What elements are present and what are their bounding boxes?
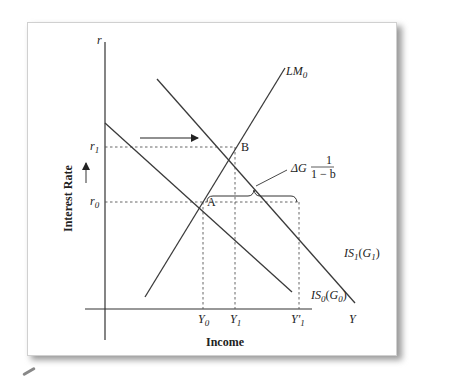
point-a-label: A	[207, 195, 216, 209]
multiplier-prefix: ΔG	[290, 161, 307, 175]
annotation-leader	[256, 170, 287, 186]
tick-r0: r0	[90, 194, 100, 210]
y-axis-title: Interest Rate	[61, 165, 75, 232]
lm0-curve	[145, 68, 285, 297]
is0-label: IS0(G0)	[310, 288, 347, 304]
x-axis-title: Income	[206, 335, 245, 349]
is-lm-diagram: r Y r1 r0 Y0 Y1 Y′1 Income Interest Rate…	[0, 0, 457, 381]
y-axis-symbol: r	[97, 33, 102, 47]
is1-label: IS1(G1)	[343, 246, 380, 262]
multiplier-numerator: 1	[326, 153, 332, 167]
x-axis-symbol: Y	[349, 312, 357, 326]
tick-r1: r1	[90, 139, 99, 155]
multiplier-brace	[207, 190, 297, 202]
lm0-label: LM0	[285, 64, 308, 80]
tick-y1: Y1	[230, 312, 241, 328]
is0-curve	[105, 123, 292, 292]
multiplier-denominator: 1 − b	[311, 167, 336, 181]
tick-y0: Y0	[198, 312, 210, 328]
guide-lines	[105, 147, 299, 309]
is1-curve	[157, 79, 355, 303]
point-b-label: B	[241, 140, 249, 154]
tick-y1-prime: Y′1	[291, 312, 305, 328]
